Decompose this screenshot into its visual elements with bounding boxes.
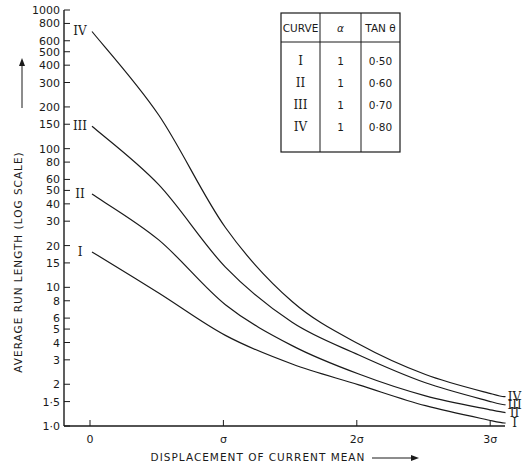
- x-arrow-icon: [372, 455, 419, 461]
- y-tick-label: 10: [46, 281, 60, 294]
- y-tick-label: 1·0: [43, 420, 61, 433]
- table-cell: 0·50: [369, 55, 392, 67]
- curve-start-label: II: [75, 187, 85, 201]
- y-tick-label: 400: [39, 59, 60, 72]
- y-tick-label: 30: [46, 215, 60, 228]
- table-cell: 1: [337, 77, 344, 89]
- x-tick-label: 2σ: [350, 433, 364, 446]
- y-axis: 1·01·52345681015203040506080100150200300…: [32, 4, 70, 433]
- y-tick-label: 4: [53, 337, 60, 350]
- curve-iii: [92, 126, 506, 405]
- table-cell: I: [298, 54, 303, 68]
- y-arrow-icon: [19, 58, 25, 108]
- arl-chart: 1·01·52345681015203040506080100150200300…: [0, 0, 527, 473]
- y-tick-label: 300: [39, 77, 60, 90]
- table-header-curve: CURVE: [283, 22, 319, 34]
- y-tick-label: 100: [39, 143, 60, 156]
- x-tick-label: 3σ: [483, 433, 497, 446]
- y-tick-label: 600: [39, 35, 60, 48]
- table-cell: 1: [337, 55, 344, 67]
- y-axis-title-text: AVERAGE RUN LENGTH (LOG SCALE): [12, 151, 24, 372]
- curve-start-label: IV: [73, 24, 87, 38]
- y-tick-label: 8: [53, 295, 60, 308]
- table-cell: II: [296, 76, 306, 90]
- legend-table: CURVE α TAN θ I10·50II10·60III10·70IV10·…: [281, 13, 400, 152]
- y-tick-label: 60: [46, 173, 60, 186]
- curve-start-label: I: [78, 245, 83, 259]
- y-tick-label: 2: [53, 378, 60, 391]
- y-tick-label: 15: [46, 257, 60, 270]
- table-cell: 0·60: [369, 77, 392, 89]
- curve-start-label: III: [73, 119, 87, 133]
- table-cell: 1: [337, 121, 344, 133]
- y-tick-label: 40: [46, 198, 60, 211]
- y-axis-title: AVERAGE RUN LENGTH (LOG SCALE): [12, 151, 24, 372]
- y-tick-label: 6: [53, 312, 60, 325]
- y-tick-label: 1000: [32, 4, 60, 17]
- curve-ii: [92, 194, 506, 413]
- table-cell: III: [293, 98, 307, 112]
- x-axis: 0σ2σ3σ: [64, 420, 505, 446]
- y-tick-label: 800: [39, 17, 60, 30]
- table-cell: IV: [294, 120, 308, 134]
- table-header-alpha: α: [337, 22, 344, 34]
- table-cell: 0·80: [369, 121, 392, 133]
- table-cell: 1: [337, 99, 344, 111]
- y-tick-label: 1·5: [43, 396, 61, 409]
- curve-end-label: IV: [508, 390, 522, 404]
- y-tick-label: 200: [39, 101, 60, 114]
- curve-i: [92, 252, 506, 423]
- x-axis-title: DISPLACEMENT OF CURRENT MEAN: [151, 451, 366, 463]
- y-tick-label: 3: [53, 354, 60, 367]
- y-tick-label: 20: [46, 240, 60, 253]
- x-tick-label: 0: [87, 433, 94, 446]
- x-tick-label: σ: [220, 433, 227, 446]
- table-cell: 0·70: [369, 99, 392, 111]
- y-tick-label: 80: [46, 156, 60, 169]
- table-header-tan-theta: TAN θ: [364, 22, 395, 34]
- y-tick-label: 150: [39, 118, 60, 131]
